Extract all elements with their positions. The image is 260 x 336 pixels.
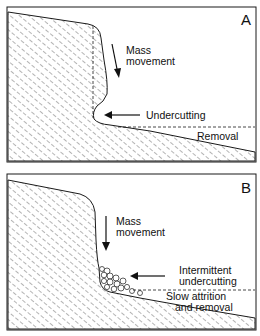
panel-a: A Mass movement Undercutting Removal	[7, 7, 256, 162]
cliff-erosion-diagram: A Mass movement Undercutting Removal B M…	[0, 0, 260, 336]
panel-a-letter: A	[241, 11, 251, 28]
panel-b: B Mass movement Intermittent undercuttin…	[7, 174, 256, 330]
panel-a-label-undercutting: Undercutting	[146, 109, 206, 121]
panel-b-label-undercutting: undercutting	[179, 275, 237, 287]
panel-b-label-and-removal: and removal	[175, 301, 233, 313]
panel-b-letter: B	[241, 179, 251, 196]
panel-a-label-removal: Removal	[197, 130, 238, 142]
panel-b-label-movement: movement	[116, 226, 165, 238]
panel-a-label-movement: movement	[126, 55, 175, 67]
